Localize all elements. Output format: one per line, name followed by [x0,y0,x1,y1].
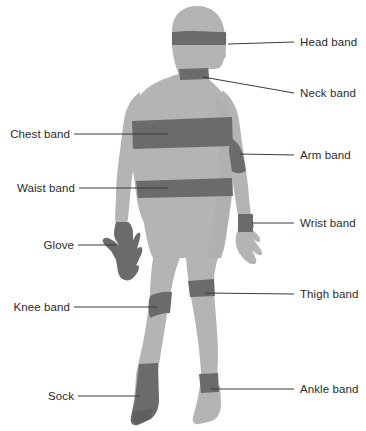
chest-band[interactable] [132,117,233,149]
callout-label-sock: Sock [0,390,74,403]
callout-label-arm-band: Arm band [300,149,351,162]
leader-line-thigh-band [205,293,294,294]
neck-band[interactable] [179,68,209,80]
wrist-band[interactable] [238,214,253,232]
leader-line-arm-band [240,154,294,155]
knee-band[interactable] [149,292,173,318]
callout-label-wrist-band: Wrist band [300,217,356,230]
glove[interactable] [103,222,143,280]
leader-line-head-band [228,42,294,44]
callout-label-glove: Glove [0,239,74,252]
callout-label-thigh-band: Thigh band [300,288,359,301]
callout-label-ankle-band: Ankle band [300,383,359,396]
callout-label-head-band: Head band [300,36,357,49]
callout-label-waist-band: Waist band [0,182,75,195]
callout-label-chest-band: Chest band [0,128,70,141]
callout-label-neck-band: Neck band [300,87,356,100]
callout-label-knee-band: Knee band [0,301,70,314]
right-leg-shape [186,258,218,391]
thigh-band[interactable] [188,279,215,297]
ankle-band[interactable] [199,373,219,393]
head-band-rect[interactable] [172,32,226,45]
body-diagram-canvas [0,0,366,431]
body-band-diagram: Head band Neck band Arm band Wrist band … [0,0,366,431]
